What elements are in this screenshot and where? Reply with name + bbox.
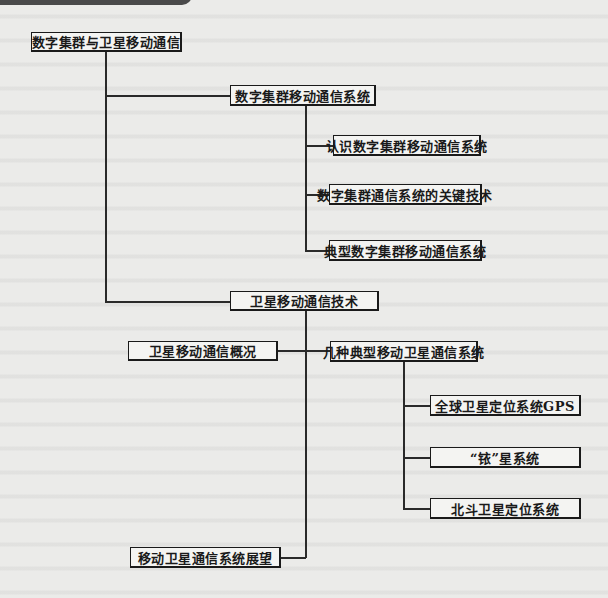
- node-trunking-intro: 认识数字集群移动通信系统: [333, 135, 481, 156]
- connector-root-to-trunking: [105, 95, 231, 97]
- node-trunking-typical: 典型数字集群移动通信系统: [329, 240, 482, 261]
- connector-gps: [403, 405, 431, 407]
- connector-root-trunk: [105, 51, 107, 302]
- connector-beidou: [403, 508, 431, 510]
- node-satellite-overview: 卫星移动通信概况: [128, 341, 278, 361]
- node-satellite-tech: 卫星移动通信技术: [230, 291, 379, 311]
- node-iridium: “铱”星系统: [430, 447, 581, 468]
- connector-satellite-trunk: [305, 310, 307, 558]
- header-bar: [0, 0, 192, 5]
- node-root: 数字集群与卫星移动通信: [31, 32, 182, 52]
- connector-iridium: [403, 457, 431, 459]
- node-satellite-outlook: 移动卫星通信系统展望: [130, 547, 281, 568]
- node-gps: 全球卫星定位系统GPS: [430, 395, 581, 416]
- node-beidou: 北斗卫星定位系统: [430, 498, 581, 519]
- node-trunking-key-tech: 数字集群通信系统的关键技术: [329, 184, 482, 205]
- connector-typical-trunk: [403, 361, 405, 509]
- node-satellite-typical: 几种典型移动卫星通信系统: [330, 341, 478, 362]
- node-trunking-system: 数字集群移动通信系统: [230, 85, 376, 106]
- connector-trunking-trunk: [305, 105, 307, 251]
- connector-root-to-satellite: [105, 301, 231, 303]
- connector-satellite-outlook: [280, 557, 306, 559]
